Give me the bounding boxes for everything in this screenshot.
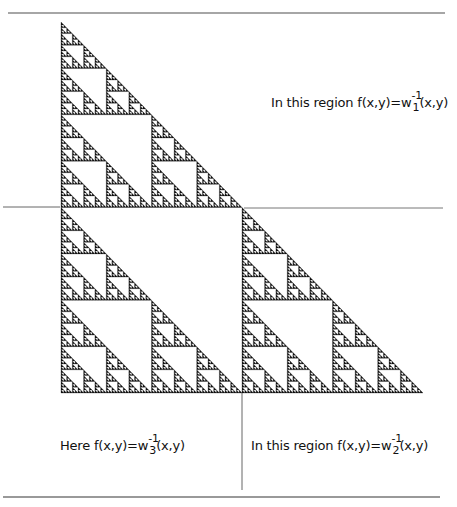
region3-formula-suffix: (x,y): [156, 438, 185, 453]
region1-formula-suffix: (x,y): [419, 95, 448, 110]
region2-inverse-index: -12: [391, 440, 399, 450]
region1-label: In this region f(x,y)=w-11(x,y): [271, 95, 448, 110]
region1-formula-prefix: In this region f(x,y)=w: [271, 95, 411, 110]
region3-inverse-index: -13: [148, 440, 156, 450]
region2-formula-suffix: (x,y): [399, 438, 428, 453]
region2-subscript: 2: [392, 444, 399, 457]
region3-label: Here f(x,y)=w-13(x,y): [60, 438, 185, 453]
region3-subscript: 3: [149, 444, 156, 457]
region2-formula-prefix: In this region f(x,y)=w: [251, 438, 391, 453]
region1-subscript: 1: [412, 101, 419, 114]
region1-inverse-index: -11: [411, 97, 419, 107]
region3-formula-prefix: Here f(x,y)=w: [60, 438, 148, 453]
region2-label: In this region f(x,y)=w-12(x,y): [251, 438, 428, 453]
sierpinski-diagram: [0, 0, 457, 507]
